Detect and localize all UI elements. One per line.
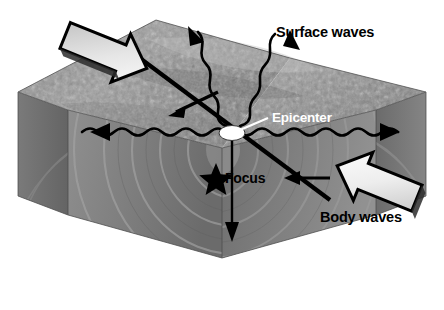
- diagram-canvas: [0, 0, 444, 310]
- epicenter-ellipse: [219, 126, 245, 141]
- label-focus: Focus: [225, 170, 265, 186]
- label-surface-waves: Surface waves: [276, 24, 374, 40]
- label-body-waves: Body waves: [320, 209, 402, 225]
- earthquake-diagram: Surface waves Epicenter Focus Body waves: [0, 0, 444, 310]
- label-epicenter: Epicenter: [272, 110, 332, 125]
